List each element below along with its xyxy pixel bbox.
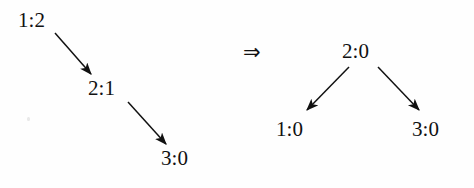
node-label-left-leaf: 3:0 [161,148,188,169]
edge-right-root-to-left-leaf [307,67,349,110]
node-label-left-mid: 2:1 [88,78,115,99]
edge-left-mid-to-leaf [128,102,166,144]
edge-left-root-to-mid [55,33,91,74]
node-label-right-left-leaf: 1:0 [276,119,303,140]
node-label-right-right-leaf: 3:0 [412,119,439,140]
node-label-left-root: 1:2 [18,10,45,31]
edge-layer [0,0,474,188]
diagram-canvas: 1:2 2:1 3:0 ⇒ 2:0 1:0 3:0 [0,0,474,188]
edge-right-root-to-right-leaf [378,67,419,110]
node-label-right-root: 2:0 [342,41,369,62]
scan-artifact-speck [27,117,30,121]
implies-arrow-icon: ⇒ [243,42,261,63]
